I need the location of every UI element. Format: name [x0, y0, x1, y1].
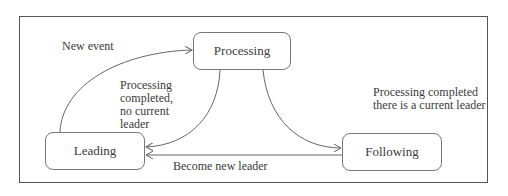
edge-current-leader [263, 70, 341, 148]
state-label: Leading [74, 143, 117, 159]
state-label: Processing [214, 43, 270, 59]
state-leading: Leading [45, 132, 145, 170]
transition-label-no-current-leader: Processing completed, no current leader [120, 79, 173, 131]
state-label: Following [365, 144, 418, 160]
transition-label-current-leader: Processing completed there is a current … [373, 86, 486, 112]
state-following: Following [342, 133, 442, 171]
transition-label-become-new-leader: Become new leader [173, 160, 268, 173]
state-processing: Processing [193, 32, 291, 70]
transition-label-new-event: New event [62, 40, 114, 53]
